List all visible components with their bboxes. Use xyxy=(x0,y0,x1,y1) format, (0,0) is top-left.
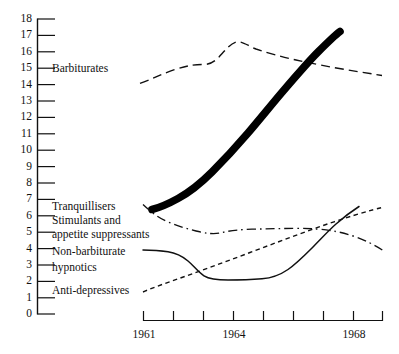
series-path-hypnotics xyxy=(143,207,359,281)
series-label-stimulants-line1: Stimulants and xyxy=(52,213,121,227)
y-tick-label-0: 0 xyxy=(10,308,32,320)
y-tick-label-10: 10 xyxy=(10,144,32,156)
y-tick-label-13: 13 xyxy=(10,95,32,107)
series-path-tranquillisers xyxy=(152,32,340,210)
series-label-antidepressives: Anti-depressives xyxy=(52,283,129,297)
y-tick-label-9: 9 xyxy=(10,161,32,173)
y-tick-label-12: 12 xyxy=(10,111,32,123)
y-tick-label-16: 16 xyxy=(10,46,32,58)
x-tick-label-1968: 1968 xyxy=(332,329,376,341)
series-label-hypnotics-line2: hypnotics xyxy=(52,260,97,274)
y-tick-label-14: 14 xyxy=(10,79,32,91)
y-tick-label-11: 11 xyxy=(10,128,32,140)
y-tick-label-4: 4 xyxy=(10,243,32,255)
y-tick-label-2: 2 xyxy=(10,275,32,287)
y-tick-label-5: 5 xyxy=(10,226,32,238)
series-label-barbiturates: Barbiturates xyxy=(52,61,108,75)
chart-canvas: 18 17 16 15 14 13 12 11 10 9 8 7 6 5 4 3… xyxy=(0,0,399,354)
y-tick-label-7: 7 xyxy=(10,193,32,205)
series-path-stimulants xyxy=(143,205,383,251)
series-label-tranquillisers: Tranquillisers xyxy=(52,199,115,213)
y-tick-label-17: 17 xyxy=(10,29,32,41)
series-label-hypnotics-line1: Non-barbiturate xyxy=(52,244,125,258)
y-tick-label-6: 6 xyxy=(10,210,32,222)
x-tick-label-1961: 1961 xyxy=(122,329,166,341)
plot-area xyxy=(0,0,399,354)
series-path-barbiturates xyxy=(140,42,382,84)
y-tick-label-3: 3 xyxy=(10,259,32,271)
y-tick-label-15: 15 xyxy=(10,62,32,74)
y-tick-label-1: 1 xyxy=(10,292,32,304)
x-axis-ticks xyxy=(144,311,383,321)
y-tick-label-8: 8 xyxy=(10,177,32,189)
y-tick-label-18: 18 xyxy=(10,13,32,25)
x-tick-label-1964: 1964 xyxy=(212,329,256,341)
series-label-stimulants-line2: appetite suppressants xyxy=(52,227,149,241)
